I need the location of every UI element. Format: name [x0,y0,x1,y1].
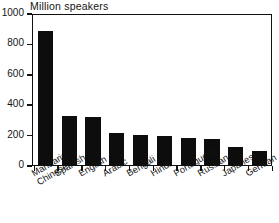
chart-title: Million speakers [30,0,108,12]
y-axis-tick-mark [27,74,32,76]
y-axis-tick-label: 1000 [2,7,24,18]
bar-slot [224,14,248,166]
y-axis-tick-mark [27,13,32,15]
bar-slot [129,14,153,166]
bar-slot [34,14,58,166]
y-axis-tick-label: 200 [7,129,24,140]
y-axis-tick-label: 800 [7,37,24,48]
bars-container [34,14,272,166]
y-axis: 02004006008001000 [0,14,32,166]
y-axis-tick-mark [27,44,32,46]
bar-slot [81,14,105,166]
bar-slot [248,14,272,166]
bar[interactable] [38,31,53,166]
y-axis-tick-mark [27,104,32,106]
x-axis-labels: MandarinChineseSpanishEnglishArabicBenga… [0,170,279,223]
bar-slot [57,14,81,166]
y-axis-tick-mark [27,135,32,137]
y-axis-tick-label: 0 [18,159,24,170]
bar-slot [105,14,129,166]
bar-slot [153,14,177,166]
bar-slot [176,14,200,166]
y-axis-tick-label: 400 [7,98,24,109]
y-axis-tick-label: 600 [7,68,24,79]
bar-chart: Million speakers Source: SIL 02004006008… [0,0,279,223]
